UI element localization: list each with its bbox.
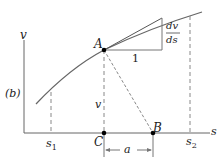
- slope-denominator: ds: [166, 35, 178, 45]
- slope-run-label: 1: [132, 53, 139, 64]
- panel-label: (b): [5, 88, 21, 99]
- label-C: C: [94, 136, 103, 148]
- label-A: A: [94, 38, 103, 50]
- label-a: a: [124, 144, 131, 155]
- tick-s2: s2: [186, 136, 197, 150]
- label-B: B: [153, 122, 162, 134]
- axis-x-label: s: [211, 126, 217, 137]
- tangent-line: [104, 18, 162, 50]
- tick-s1: s1: [46, 138, 57, 152]
- slope-numerator: dv: [166, 21, 178, 31]
- axis-y-label: v: [20, 29, 27, 41]
- label-AC-v: v: [95, 99, 101, 110]
- AB-dashed: [104, 50, 153, 133]
